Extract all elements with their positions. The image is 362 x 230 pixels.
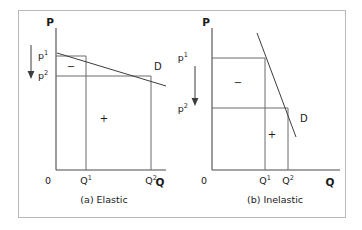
panel-b-plus-sign: + (268, 129, 276, 140)
figure-border (19, 11, 346, 218)
panel-a-price-label-2: p2 (38, 69, 48, 81)
economics-elasticity-figure: P Q 0 p1 p2 Q1 Q2 (0, 0, 362, 230)
panel-a-minus-sign: − (67, 61, 75, 72)
panel-b-origin-label: 0 (201, 175, 207, 186)
panel-b-minus-sign: − (234, 77, 242, 88)
panel-a-price-label-2-sup: 2 (44, 69, 48, 77)
panel-a-quantity-label-1-base: Q (80, 175, 87, 186)
panel-a-price-fall-arrow-head (28, 71, 35, 79)
panel-b-quantity-label-1-base: Q (259, 175, 266, 186)
panel-b-caption: (b) Inelastic (247, 194, 303, 205)
panel-b-quantity-label-1: Q1 (259, 174, 271, 186)
panel-b-demand-curve (257, 33, 296, 137)
panel-a-origin-label: 0 (45, 175, 51, 186)
panel-a-y-axis-label: P (46, 16, 54, 28)
panel-a-price-label-1-sup: 1 (44, 49, 48, 57)
panel-b-price-label-1: p1 (178, 51, 188, 63)
panel-a-plus-sign: + (100, 113, 108, 124)
panel-a-x-axis-label: Q (156, 176, 165, 188)
panel-a-quantity-label-1: Q1 (80, 174, 92, 186)
panel-b-price-label-1-sup: 1 (184, 51, 188, 59)
panel-b-y-axis-label: P (202, 16, 210, 28)
panel-b-x-axis-label: Q (326, 176, 335, 188)
panel-a-caption: (a) Elastic (80, 194, 127, 205)
panel-b-quantity-label-2-sup: 2 (290, 174, 294, 182)
panel-a-quantity-label-2-base: Q (145, 175, 152, 186)
panel-b-price-fall-arrow-head (192, 98, 199, 106)
panel-a-elastic: P Q 0 p1 p2 Q1 Q2 (28, 16, 166, 205)
panel-b-price-label-2-sup: 2 (184, 102, 188, 110)
panel-a-quantity-label-1-sup: 1 (88, 174, 92, 182)
panel-a-quantity-label-2-sup: 2 (153, 174, 157, 182)
panel-b-quantity-label-2-base: Q (282, 175, 289, 186)
panel-a-price-label-1: p1 (38, 49, 48, 61)
panel-b-demand-label: D (300, 113, 308, 124)
figure-root: P Q 0 p1 p2 Q1 Q2 (0, 0, 362, 230)
panel-b-price-label-2: p2 (178, 102, 188, 114)
panel-b-quantity-label-2: Q2 (282, 174, 294, 186)
panel-b-quantity-label-1-sup: 1 (267, 174, 271, 182)
panel-b-inelastic: P Q 0 p1 p2 Q1 Q2 (178, 16, 340, 205)
panel-a-demand-label: D (154, 61, 162, 72)
